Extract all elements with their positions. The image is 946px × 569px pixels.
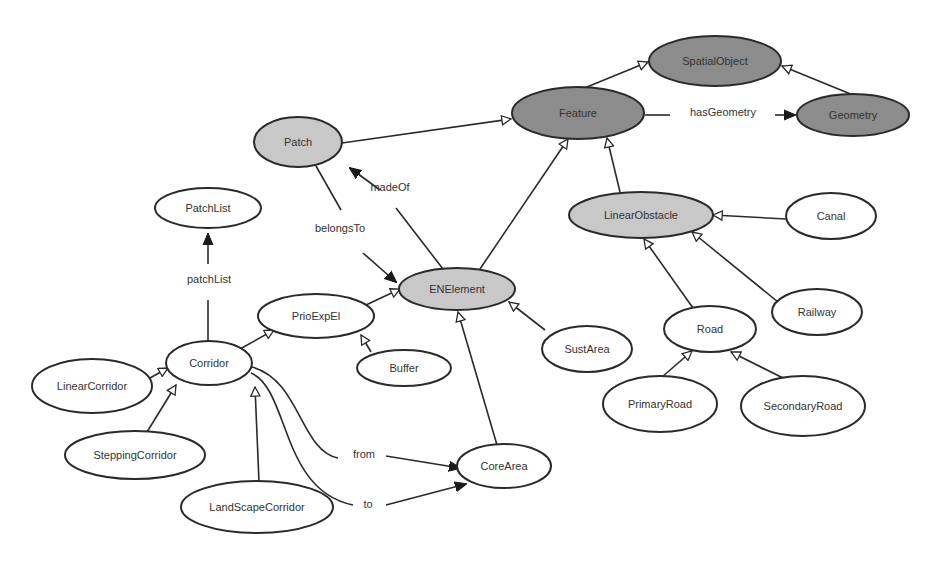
inheritance-edge-sust-area-to-enelement: [509, 302, 545, 330]
inheritance-edge-primary-road-to-road: [662, 351, 692, 377]
inheritance-edge-buffer-to-prio-exp-el: [361, 335, 371, 352]
class-node-stepping-corridor[interactable]: SteppingCorridor: [65, 431, 205, 479]
inheritance-edge-prio-exp-el-to-enelement: [366, 289, 400, 305]
class-node-sust-area[interactable]: SustArea: [542, 326, 632, 372]
class-node-label: SecondaryRoad: [764, 400, 843, 412]
class-node-label: LinearObstacle: [604, 209, 678, 221]
class-node-label: LinearCorridor: [57, 380, 128, 392]
class-node-label: Patch: [284, 136, 312, 148]
association-line-end: [363, 253, 396, 282]
association-label: hasGeometry: [690, 106, 757, 118]
association-label: from: [353, 448, 375, 460]
inheritance-edge-corridor-to-prio-exp-el: [240, 330, 274, 349]
class-node-label: SteppingCorridor: [93, 449, 176, 461]
class-node-enelement[interactable]: ENElement: [399, 268, 515, 310]
class-node-label: Canal: [817, 210, 846, 222]
class-node-railway[interactable]: Railway: [772, 289, 862, 335]
inheritance-edge-feature-to-spatial-object: [582, 62, 648, 89]
class-node-patch[interactable]: Patch: [254, 117, 342, 167]
class-node-label: Geometry: [829, 109, 878, 121]
association-line-start: [252, 367, 338, 458]
class-node-feature[interactable]: Feature: [512, 87, 644, 139]
association-line-start: [316, 166, 341, 210]
association-patch-list: patchList: [187, 234, 231, 342]
inheritance-edge-core-area-to-enelement: [458, 312, 497, 445]
inheritance-edge-railway-to-linear-obstacle: [692, 232, 778, 302]
class-node-label: ENElement: [429, 283, 485, 295]
class-node-road[interactable]: Road: [664, 306, 756, 352]
class-node-label: PrioExpEl: [292, 310, 340, 322]
class-node-label: LandScapeCorridor: [209, 501, 305, 513]
association-line-end: [386, 484, 466, 505]
association-label: madeOf: [370, 181, 410, 193]
inheritance-edge-secondary-road-to-road: [731, 352, 783, 378]
inheritance-edge-linear-corridor-to-corridor: [150, 368, 168, 378]
class-node-label: CoreArea: [480, 460, 528, 472]
association-has-geometry: hasGeometry: [645, 106, 795, 118]
class-node-patch-list[interactable]: PatchList: [155, 188, 261, 228]
class-node-label: SustArea: [564, 343, 610, 355]
association-label: patchList: [187, 273, 231, 285]
class-node-buffer[interactable]: Buffer: [357, 350, 451, 386]
association-label: belongsTo: [315, 222, 365, 234]
class-node-label: Railway: [798, 306, 837, 318]
association-line-start: [396, 208, 443, 269]
class-node-label: PrimaryRoad: [628, 398, 692, 410]
class-node-spatial-object[interactable]: SpatialObject: [649, 36, 781, 86]
inheritance-edge-canal-to-linear-obstacle: [713, 215, 786, 219]
uml-class-diagram: hasGeometrymadeOfbelongsTopatchListfromt…: [0, 0, 946, 569]
inheritance-edge-geometry-to-spatial-object: [782, 66, 853, 95]
inheritance-edge-land-scape-corridor-to-corridor: [255, 387, 259, 482]
inheritance-edge-linear-obstacle-to-feature: [607, 138, 620, 192]
association-label: to: [363, 498, 372, 510]
class-node-label: Feature: [559, 107, 597, 119]
class-node-prio-exp-el[interactable]: PrioExpEl: [258, 294, 374, 338]
class-node-secondary-road[interactable]: SecondaryRoad: [741, 376, 865, 436]
class-node-core-area[interactable]: CoreArea: [457, 444, 551, 488]
class-node-geometry[interactable]: Geometry: [797, 94, 909, 136]
class-node-label: SpatialObject: [682, 55, 747, 67]
inheritance-edge-road-to-linear-obstacle: [644, 239, 693, 308]
association-line-end: [386, 456, 460, 468]
class-node-linear-obstacle[interactable]: LinearObstacle: [569, 192, 713, 238]
inheritance-edge-patch-to-feature: [342, 119, 511, 143]
class-node-label: Buffer: [389, 362, 418, 374]
class-node-label: Corridor: [189, 357, 229, 369]
inheritance-edge-enelement-to-feature: [480, 139, 568, 269]
class-node-corridor[interactable]: Corridor: [166, 341, 252, 385]
class-nodes: SpatialObjectFeatureGeometryPatchLinearO…: [32, 36, 909, 533]
class-node-primary-road[interactable]: PrimaryRoad: [603, 376, 717, 432]
class-node-land-scape-corridor[interactable]: LandScapeCorridor: [181, 481, 333, 533]
class-node-linear-corridor[interactable]: LinearCorridor: [32, 359, 152, 413]
class-node-canal[interactable]: Canal: [786, 193, 876, 239]
class-node-label: PatchList: [185, 202, 230, 214]
class-node-label: Road: [697, 323, 723, 335]
